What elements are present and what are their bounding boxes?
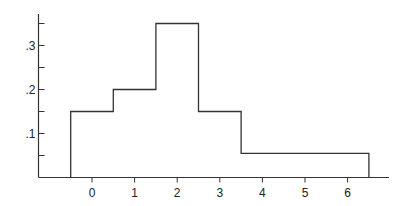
histogram-chart: .1.2.3 0123456 — [0, 0, 420, 206]
x-tick-label: 5 — [302, 186, 309, 200]
y-axis-ticks: .1.2.3 — [25, 24, 44, 156]
histogram-step-outline — [71, 24, 369, 178]
x-axis-ticks: 0123456 — [89, 178, 352, 200]
x-tick-label: 6 — [344, 186, 351, 200]
x-tick-label: 4 — [259, 186, 266, 200]
x-tick-label: 1 — [131, 186, 138, 200]
y-tick-label: .2 — [25, 83, 35, 97]
x-tick-label: 0 — [89, 186, 96, 200]
x-tick-label: 2 — [174, 186, 181, 200]
y-tick-label: .1 — [25, 127, 35, 141]
y-tick-label: .3 — [25, 39, 35, 53]
x-tick-label: 3 — [216, 186, 223, 200]
